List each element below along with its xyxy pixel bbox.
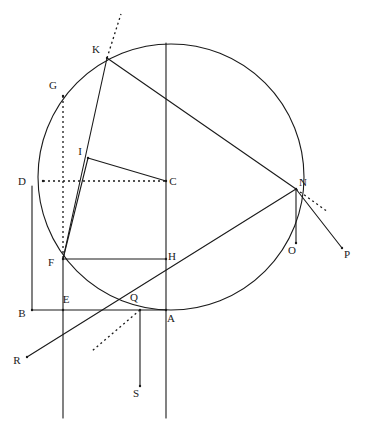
point-label-D: D <box>18 175 26 187</box>
line-RN <box>27 189 296 357</box>
point-marker-Q <box>139 309 141 311</box>
point-marker-H <box>165 258 167 260</box>
line-NP <box>296 189 342 248</box>
point-label-H: H <box>168 250 176 262</box>
point-marker-N <box>295 188 297 190</box>
point-label-G: G <box>49 79 57 91</box>
point-label-N: N <box>299 176 307 188</box>
geometry-diagram: ABCDEFGHIKNOPQRS <box>0 0 367 432</box>
dotted-tangent-K <box>107 14 121 58</box>
point-label-A: A <box>167 312 175 324</box>
dotted-tangent-Q <box>92 310 140 351</box>
point-marker-P <box>341 247 343 249</box>
point-label-I: I <box>78 145 82 157</box>
point-label-O: O <box>288 244 296 256</box>
point-marker-B <box>31 309 33 311</box>
point-marker-D <box>42 180 44 182</box>
point-label-E: E <box>63 293 70 305</box>
point-marker-E <box>62 309 64 311</box>
point-marker-I <box>87 157 89 159</box>
point-marker-F <box>62 258 64 260</box>
point-marker-C <box>165 180 167 182</box>
point-label-F: F <box>48 256 54 268</box>
line-IF <box>63 158 88 259</box>
point-label-K: K <box>92 43 100 55</box>
dotted-tangent-N <box>296 189 328 212</box>
point-label-C: C <box>169 175 176 187</box>
point-label-B: B <box>18 307 25 319</box>
line-IC <box>88 158 166 181</box>
point-label-R: R <box>13 354 21 366</box>
line-KF <box>63 58 107 259</box>
line-KN <box>107 58 296 189</box>
point-marker-S <box>139 385 141 387</box>
point-label-Q: Q <box>130 291 138 303</box>
point-marker-A <box>165 309 167 311</box>
point-marker-R <box>26 356 28 358</box>
point-marker-K <box>106 57 108 59</box>
point-marker-G <box>62 95 64 97</box>
point-label-S: S <box>133 387 139 399</box>
diagram-canvas: ABCDEFGHIKNOPQRS <box>0 0 367 432</box>
point-label-P: P <box>344 248 350 260</box>
